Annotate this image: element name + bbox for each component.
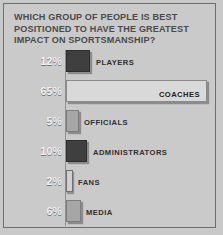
bar-label-officials: OFFICIALS — [84, 118, 128, 127]
bar-value-fans: 2% — [20, 175, 62, 187]
bar-label-administrators: ADMINISTRATORS — [93, 148, 167, 157]
bar-players — [66, 50, 90, 72]
bar-label-players: PLAYERS — [96, 58, 134, 67]
bar-row-media: 6% MEDIA — [4, 198, 217, 228]
bar-row-administrators: 10% ADMINISTRATORS — [4, 138, 217, 168]
bar-chart-plot-area: 12% PLAYERS 65% COACHES 5% OFFICIALS 10%… — [4, 48, 217, 228]
bar-media — [66, 200, 81, 222]
chart-title: WHICH GROUP OF PEOPLE IS BEST POSITIONED… — [14, 12, 210, 47]
bar-label-coaches: COACHES — [159, 90, 200, 99]
bar-label-media: MEDIA — [86, 208, 113, 217]
bar-label-fans: FANS — [78, 178, 100, 187]
bar-value-officials: 5% — [20, 115, 62, 127]
bar-officials — [66, 110, 79, 132]
bar-row-fans: 2% FANS — [4, 168, 217, 198]
bar-value-players: 12% — [20, 55, 62, 67]
bar-coaches: COACHES — [66, 80, 207, 102]
bar-row-players: 12% PLAYERS — [4, 48, 217, 78]
bar-value-administrators: 10% — [20, 145, 62, 157]
bar-value-coaches: 65% — [20, 85, 62, 97]
bar-fans — [66, 170, 73, 192]
bar-row-coaches: 65% COACHES — [4, 78, 217, 108]
bar-administrators — [66, 140, 87, 162]
bar-value-media: 6% — [20, 205, 62, 217]
bar-row-officials: 5% OFFICIALS — [4, 108, 217, 138]
chart-frame: WHICH GROUP OF PEOPLE IS BEST POSITIONED… — [3, 3, 216, 228]
